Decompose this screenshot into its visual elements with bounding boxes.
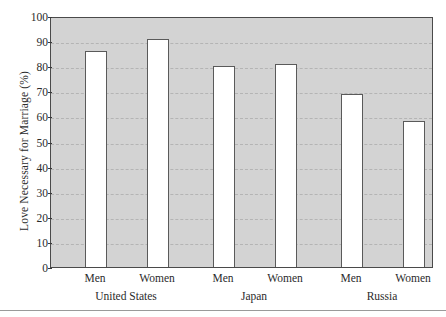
y-tick-mark — [48, 193, 52, 194]
y-tick-label: 0 — [24, 263, 48, 273]
x-category-label: Women — [373, 270, 446, 286]
y-tick-mark — [48, 67, 52, 68]
y-tick-label: 10 — [24, 238, 48, 248]
bar — [275, 64, 297, 267]
y-tick-mark — [48, 243, 52, 244]
y-tick-mark — [48, 17, 52, 18]
x-axis-group-labels: United StatesJapanRussia — [50, 288, 433, 306]
x-group-label: Japan — [194, 288, 314, 304]
gridline — [51, 169, 432, 170]
y-tick-mark — [48, 168, 52, 169]
x-group-label: United States — [66, 288, 186, 304]
bar — [341, 94, 363, 267]
bar — [403, 121, 425, 267]
gridline — [51, 219, 432, 220]
x-axis-category-labels: MenWomenMenWomenMenWomen — [50, 270, 433, 288]
y-tick-label: 90 — [24, 37, 48, 47]
bar — [213, 66, 235, 267]
bar — [85, 51, 107, 267]
gridline — [51, 144, 432, 145]
y-tick-mark — [48, 218, 52, 219]
bar-chart-figure: Love Necessary for Marriage (%) 10090807… — [0, 0, 446, 317]
gridline — [51, 43, 432, 44]
bar — [147, 39, 169, 267]
x-group-label: Russia — [322, 288, 442, 304]
y-tick-label: 20 — [24, 213, 48, 223]
y-tick-mark — [48, 117, 52, 118]
y-tick-label: 60 — [24, 112, 48, 122]
y-axis-tick-labels: 1009080706050403020100 — [24, 17, 48, 268]
plot-area — [50, 17, 433, 268]
y-tick-mark — [48, 92, 52, 93]
y-tick-mark — [48, 42, 52, 43]
gridline — [51, 68, 432, 69]
y-tick-mark — [48, 268, 52, 269]
y-tick-mark — [48, 143, 52, 144]
gridline — [51, 194, 432, 195]
gridline — [51, 244, 432, 245]
y-tick-label: 80 — [24, 62, 48, 72]
y-tick-label: 50 — [24, 138, 48, 148]
y-tick-label: 70 — [24, 87, 48, 97]
y-tick-label: 100 — [24, 12, 48, 22]
y-tick-label: 30 — [24, 188, 48, 198]
gridline — [51, 93, 432, 94]
gridline — [51, 118, 432, 119]
y-tick-label: 40 — [24, 163, 48, 173]
figure-bottom-rule — [0, 310, 446, 311]
